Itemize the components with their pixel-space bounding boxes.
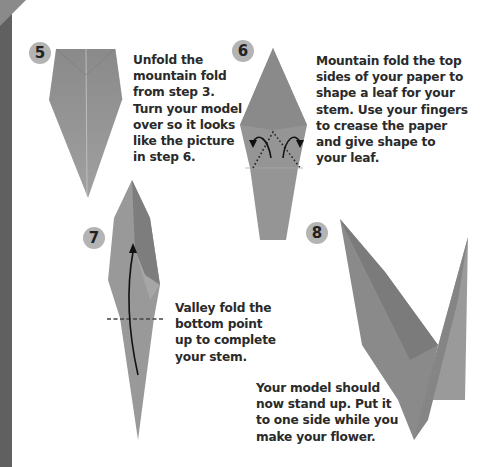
step-8-instructions: Your model shouldnow stand up. Put itto … (256, 380, 398, 445)
step-8-figure (0, 0, 484, 467)
